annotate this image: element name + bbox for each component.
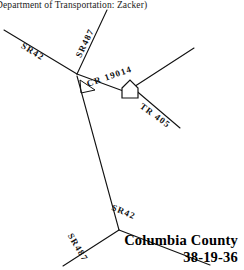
road-sketch-map-page: Department of Transportation: Zacker) SR… [0, 0, 244, 270]
corner-block: Columbia County 38-19-36 [124, 232, 238, 266]
house-icon [122, 80, 138, 98]
county-name: Columbia County [124, 232, 238, 249]
map-drawing [0, 0, 244, 270]
map-code: 38-19-36 [124, 249, 238, 266]
